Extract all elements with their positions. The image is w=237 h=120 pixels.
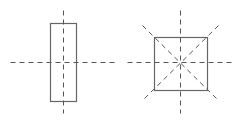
- square-figure: [128, 11, 234, 114]
- rectangle-outline: [51, 24, 77, 102]
- symmetry-diagram: [0, 0, 237, 120]
- rectangle-figure: [11, 11, 116, 114]
